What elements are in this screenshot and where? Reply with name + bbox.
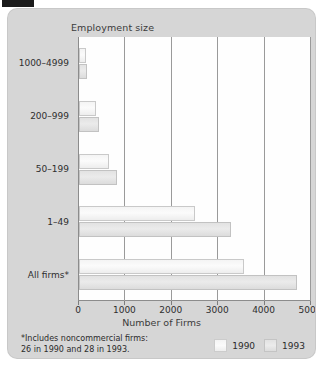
legend-swatch-1990 <box>214 339 227 352</box>
x-axis-title: Number of Firms <box>8 317 315 328</box>
chart-panel: Employment size 1000–4999200–99950–1991–… <box>8 9 315 358</box>
gridline-5000 <box>310 37 311 301</box>
bar-1993-1-49 <box>79 222 231 237</box>
x-tick-label-2000: 2000 <box>159 305 182 315</box>
bar-1990-200-999 <box>79 101 96 116</box>
bar-1990-All-firms- <box>79 259 244 274</box>
x-tick-label-0: 0 <box>75 305 81 315</box>
legend-label-1990: 1990 <box>232 341 255 351</box>
x-tick-label-5000: 5000 <box>299 305 315 315</box>
category-label-All-firms-: All firms* <box>28 270 69 280</box>
chart-footnote: *Includes noncommercial firms: 26 in 199… <box>21 333 148 355</box>
category-label-1-49: 1–49 <box>47 217 69 227</box>
x-axis-line <box>78 300 310 301</box>
bar-1990-1-49 <box>79 206 195 221</box>
bar-1993-1000-4999 <box>79 64 87 79</box>
y-axis-title: Employment size <box>71 22 154 33</box>
x-tick-label-1000: 1000 <box>113 305 136 315</box>
bar-1993-50-199 <box>79 170 117 185</box>
legend-label-1993: 1993 <box>282 341 305 351</box>
plot-area <box>78 37 310 301</box>
legend-item-1993[interactable]: 1993 <box>264 339 305 352</box>
category-label-200-999: 200–999 <box>30 111 69 121</box>
top-left-marker <box>2 0 34 7</box>
legend-swatch-1993 <box>264 339 277 352</box>
bar-1993-200-999 <box>79 117 99 132</box>
legend-item-1990[interactable]: 1990 <box>214 339 255 352</box>
gridline-4000 <box>264 37 265 301</box>
bar-1993-All-firms- <box>79 275 297 290</box>
category-label-1000-4999: 1000–4999 <box>19 58 69 68</box>
chart-legend: 19901993 <box>214 339 305 352</box>
x-tick-label-3000: 3000 <box>206 305 229 315</box>
bar-1990-1000-4999 <box>79 48 86 63</box>
bar-1990-50-199 <box>79 154 109 169</box>
category-label-50-199: 50–199 <box>36 164 69 174</box>
x-tick-label-4000: 4000 <box>252 305 275 315</box>
